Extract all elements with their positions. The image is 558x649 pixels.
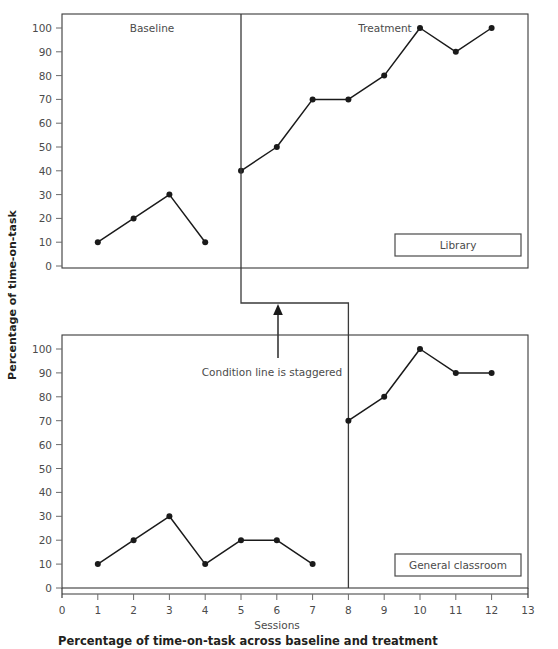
y-tick-label: 90 <box>39 46 52 58</box>
y-tick-label: 70 <box>39 93 52 105</box>
y-tick-label: 50 <box>39 463 52 475</box>
y-tick-label: 80 <box>39 391 52 403</box>
panel-library-y-ticks <box>56 28 62 266</box>
y-tick-label: 30 <box>39 510 52 522</box>
figure-caption: Percentage of time-on-task across baseli… <box>58 634 438 648</box>
series-line-classroom-baseline <box>98 516 313 564</box>
y-tick-label: 20 <box>39 212 52 224</box>
series-line-classroom-treatment <box>348 349 491 421</box>
y-tick-label: 70 <box>39 415 52 427</box>
series-points-classroom-treatment <box>345 346 494 424</box>
y-tick-label: 10 <box>39 236 52 248</box>
legend-label-library: Library <box>440 239 477 251</box>
x-tick-label: 6 <box>273 604 280 616</box>
y-tick-label: 20 <box>39 534 52 546</box>
phase-label-baseline: Baseline <box>130 22 175 34</box>
x-axis: 0 1 2 3 4 5 6 7 8 9 10 11 12 13 Sessions <box>59 588 535 631</box>
y-tick-label: 60 <box>39 439 52 451</box>
y-tick-label: 0 <box>45 260 52 272</box>
x-axis-title: Sessions <box>254 619 300 631</box>
y-tick-label: 100 <box>32 22 52 34</box>
figure-container: 100 90 80 70 60 50 40 30 20 10 0 Baselin… <box>0 0 558 649</box>
series-points-library-treatment <box>238 25 495 174</box>
x-tick-label: 5 <box>238 604 245 616</box>
y-tick-label: 40 <box>39 165 52 177</box>
series-line-library-baseline <box>98 195 205 243</box>
y-tick-label: 30 <box>39 189 52 201</box>
annotation-condition-line: Condition line is staggered <box>202 366 342 378</box>
x-tick-label: 9 <box>381 604 388 616</box>
chart-svg: 100 90 80 70 60 50 40 30 20 10 0 Baselin… <box>0 0 558 649</box>
legend-label-general-classroom: General classroom <box>409 559 507 571</box>
x-tick-label: 10 <box>413 604 426 616</box>
x-tick-label: 12 <box>485 604 498 616</box>
x-tick-label: 4 <box>202 604 209 616</box>
x-tick-label: 11 <box>449 604 462 616</box>
x-tick-label: 8 <box>345 604 352 616</box>
x-tick-label: 0 <box>59 604 66 616</box>
y-tick-label: 10 <box>39 558 52 570</box>
x-tick-label: 1 <box>94 604 101 616</box>
x-tick-label: 2 <box>130 604 137 616</box>
phase-label-treatment: Treatment <box>357 22 411 34</box>
x-tick-label: 7 <box>309 604 316 616</box>
series-points-library-baseline <box>95 192 208 246</box>
y-tick-label: 50 <box>39 141 52 153</box>
x-tick-label: 3 <box>166 604 173 616</box>
series-points-classroom-baseline <box>95 513 316 567</box>
y-tick-label: 90 <box>39 367 52 379</box>
y-tick-label: 0 <box>45 582 52 594</box>
panel-library: 100 90 80 70 60 50 40 30 20 10 0 Baselin… <box>32 14 528 272</box>
y-tick-label: 100 <box>32 343 52 355</box>
y-tick-label: 80 <box>39 70 52 82</box>
y-tick-label: 40 <box>39 486 52 498</box>
x-tick-label: 13 <box>521 604 534 616</box>
y-axis-title: Percentage of time-on-task <box>6 209 19 379</box>
annotation-arrow <box>273 304 283 358</box>
y-tick-label: 60 <box>39 117 52 129</box>
panel-general-classroom-y-ticks <box>56 349 62 588</box>
